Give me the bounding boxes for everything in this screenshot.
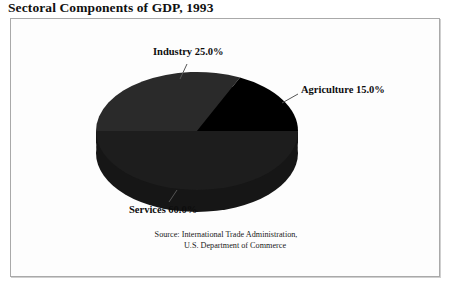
pie-top-face — [96, 72, 298, 190]
leader-line-agriculture — [282, 94, 298, 103]
pie-label-services: Services 60.0% — [129, 204, 197, 215]
chart-panel: Industry 25.0% Agriculture 15.0% Service… — [10, 18, 440, 277]
pie-label-industry: Industry 25.0% — [153, 46, 224, 57]
source-note: Source: International Trade Administrati… — [11, 229, 441, 251]
pie-label-agriculture: Agriculture 15.0% — [301, 84, 385, 95]
source-line-1: Source: International Trade Administrati… — [11, 229, 441, 240]
source-line-2: U.S. Department of Commerce — [11, 240, 441, 251]
page-title: Sectoral Components of GDP, 1993 — [8, 0, 214, 16]
pie-chart: Industry 25.0% Agriculture 15.0% Service… — [11, 19, 441, 278]
